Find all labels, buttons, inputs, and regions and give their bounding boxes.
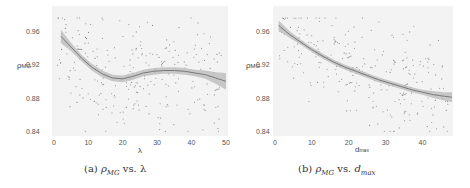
x-tick-label: 40 [419,139,427,146]
x-tick-label: 20 [345,139,353,146]
caption-a: (a) ρMG vs. λ [84,163,146,177]
y-tick-label: 0.96 [256,28,270,35]
y-tick-label: 0.88 [256,95,270,102]
x-tick-label: 30 [382,139,390,146]
y-tick-label: 0.92 [256,61,270,68]
y-tick-label: 0.84 [256,128,270,135]
x-tick-label: 0 [273,139,277,146]
x-axis-label-b: dmax [355,145,369,154]
plot-area-b [0,0,470,150]
x-tick-label: 10 [308,139,316,146]
caption-b: (b) ρMG vs. dmax [298,163,376,177]
